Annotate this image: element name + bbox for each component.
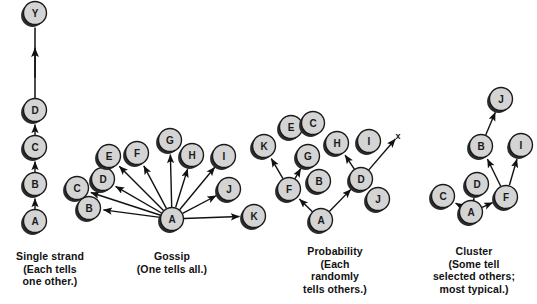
node-label: I <box>223 151 226 162</box>
node-label: B <box>477 141 484 152</box>
node-label: C <box>73 183 80 194</box>
node-label: B <box>315 176 322 187</box>
node-label: D <box>99 174 106 185</box>
edge-probability-A-to-D <box>329 189 350 211</box>
edge-gossip-A-to-B <box>103 210 160 218</box>
node-label: I <box>368 136 371 147</box>
node-cluster-d: D <box>463 173 488 198</box>
node-label: A <box>31 216 38 227</box>
node-probability-j: J <box>364 188 389 213</box>
node-label: C <box>309 118 316 129</box>
node-label: D <box>473 179 480 190</box>
node-label: J <box>226 184 232 195</box>
nodes-layer: YDCBAABCDEFGHIJKKECGHIBFDJAJBIDFCA <box>21 2 532 235</box>
node-probability-e: E <box>277 116 302 141</box>
node-label: A <box>467 207 474 218</box>
node-gossip-f: F <box>123 142 148 167</box>
edge-cluster-F-to-I <box>509 159 517 186</box>
node-label: I <box>520 140 523 151</box>
panel-caption-probability: Probability (Each randomly tells others.… <box>280 245 390 295</box>
node-probability-d: D <box>347 168 372 193</box>
marks-layer: x <box>395 131 400 141</box>
node-cluster-f: F <box>492 186 517 211</box>
node-label: B <box>85 203 92 214</box>
node-label: F <box>286 184 292 195</box>
edge-probability-F-to-G <box>295 169 301 179</box>
node-label: G <box>166 135 174 146</box>
node-probability-c: C <box>299 112 324 137</box>
node-cluster-b: B <box>467 135 492 160</box>
panel-caption-gossip: Gossip (One tells all.) <box>112 250 232 275</box>
node-label: E <box>288 122 295 133</box>
node-label: H <box>188 150 195 161</box>
edge-gossip-A-to-I <box>180 167 215 210</box>
node-label: A <box>168 214 175 225</box>
node-cluster-a: A <box>457 201 482 226</box>
edge-probability-A-to-F <box>299 199 312 212</box>
node-label: A <box>317 215 324 226</box>
node-label: B <box>31 179 38 190</box>
node-label: K <box>260 141 268 152</box>
node-probability-i: I <box>355 130 380 155</box>
node-cluster-c: C <box>429 185 454 210</box>
node-single-strand-b: B <box>21 173 46 198</box>
edge-gossip-A-to-C <box>91 192 161 215</box>
edge-gossip-A-to-D <box>116 186 162 213</box>
node-probability-k: K <box>250 135 275 160</box>
node-gossip-a: A <box>158 208 183 233</box>
node-single-strand-c: C <box>21 136 46 161</box>
panel-caption-cluster: Cluster (Some tell selected others; most… <box>412 245 536 295</box>
edge-cluster-B-to-J <box>486 112 496 135</box>
node-gossip-h: H <box>178 144 203 169</box>
node-label: J <box>498 94 504 105</box>
node-probability-f: F <box>275 178 300 203</box>
node-probability-g: G <box>294 145 319 170</box>
edge-gossip-A-to-K <box>184 217 240 219</box>
node-label: C <box>31 142 38 153</box>
node-single-strand-y: Y <box>21 2 46 27</box>
node-label: E <box>106 151 113 162</box>
edge-probability-F-to-K <box>271 159 283 179</box>
panel-caption-single-strand: Single strand (Each tells one other.) <box>0 250 100 288</box>
node-probability-a: A <box>307 209 332 234</box>
edge-cluster-A-to-F <box>482 203 493 208</box>
node-probability-b: B <box>305 170 330 195</box>
node-label: C <box>439 191 446 202</box>
node-single-strand-d: D <box>21 99 46 124</box>
edge-gossip-A-to-G <box>170 154 171 207</box>
node-label: D <box>357 174 364 185</box>
node-gossip-i: I <box>210 145 235 170</box>
edge-cluster-A-to-C <box>456 203 461 206</box>
node-gossip-d: D <box>89 168 114 193</box>
node-gossip-k: K <box>240 205 265 230</box>
node-gossip-e: E <box>95 145 120 170</box>
node-label: H <box>333 138 340 149</box>
node-label: K <box>250 211 258 222</box>
node-label: G <box>304 151 312 162</box>
node-label: Y <box>32 8 39 19</box>
node-single-strand-a: A <box>21 210 46 235</box>
node-cluster-j: J <box>487 88 512 113</box>
x-terminus-mark: x <box>395 131 400 141</box>
node-label: J <box>375 194 381 205</box>
node-gossip-g: G <box>156 129 181 154</box>
node-cluster-i: I <box>507 134 532 159</box>
edge-cluster-F-to-B <box>487 159 500 186</box>
node-gossip-j: J <box>215 178 240 203</box>
edge-gossip-A-to-J <box>183 196 217 214</box>
node-label: F <box>134 148 140 159</box>
node-label: F <box>503 192 509 203</box>
edge-probability-D-to-H <box>345 155 354 169</box>
node-label: D <box>31 105 38 116</box>
node-probability-h: H <box>323 132 348 157</box>
